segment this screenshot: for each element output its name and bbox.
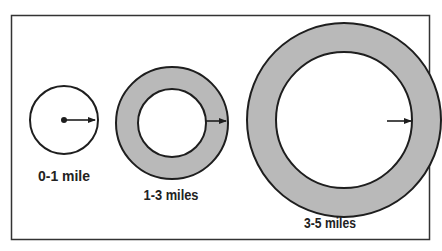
zone-0-1-mile: 0-1 mile [30, 86, 98, 184]
ring-inner-edge [138, 89, 206, 157]
zone-label: 3-5 miles [304, 214, 356, 231]
distance-zones-diagram: 0-1 mile 1-3 miles 3-5 miles [0, 0, 442, 251]
zone-label: 1-3 miles [144, 186, 199, 203]
ring-inner-edge [276, 52, 412, 188]
zone-label: 0-1 mile [38, 167, 90, 184]
